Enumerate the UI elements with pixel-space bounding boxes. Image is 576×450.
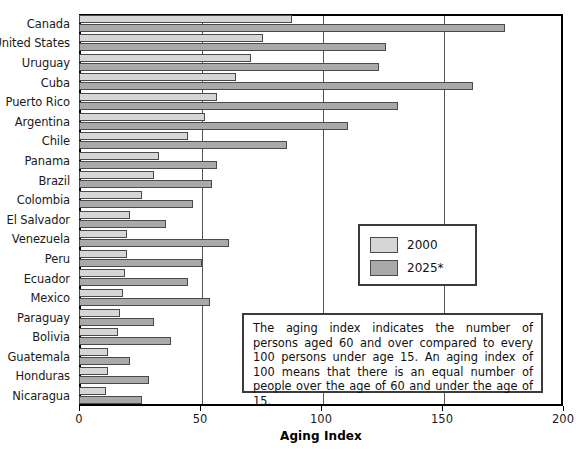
bar-group: [79, 151, 563, 171]
y-axis-label: Puerto Rico: [0, 92, 75, 112]
bar-group: [79, 249, 563, 269]
bar-2000: [79, 367, 108, 375]
x-axis-tick: [79, 406, 80, 411]
legend-item: 2025*: [370, 256, 475, 279]
y-axis-label: Cuba: [0, 73, 75, 93]
bar-2025: [79, 43, 386, 51]
legend-label: 2000: [407, 238, 438, 252]
y-axis-label: Ecuador: [0, 269, 75, 289]
y-axis-label: Bolivia: [0, 328, 75, 348]
y-axis-label: Venezuela: [0, 230, 75, 250]
bar-group: [79, 92, 563, 112]
y-axis-label: Mexico: [0, 288, 75, 308]
bar-2000: [79, 152, 159, 160]
bar-2000: [79, 348, 108, 356]
bar-2000: [79, 191, 142, 199]
bar-2000: [79, 211, 130, 219]
bar-2000: [79, 250, 127, 258]
bar-group: [79, 132, 563, 152]
y-axis-label: Nicaragua: [0, 386, 75, 406]
y-axis-label: Paraguay: [0, 308, 75, 328]
note-box: The aging index indicates the number of …: [242, 313, 543, 393]
bar-2000: [79, 387, 106, 395]
bar-2025: [79, 180, 212, 188]
x-axis-tick-label: 100: [310, 412, 332, 426]
bar-2025: [79, 298, 210, 306]
x-axis-tick-label: 150: [431, 412, 453, 426]
bar-2000: [79, 328, 118, 336]
bar-2025: [79, 239, 229, 247]
y-axis-label: Chile: [0, 132, 75, 152]
x-axis-tick-label: 200: [552, 412, 574, 426]
legend-swatch: [370, 237, 398, 253]
y-axis-labels: CanadaUnited StatesUruguayCubaPuerto Ric…: [0, 14, 75, 406]
y-axis-label: Canada: [0, 14, 75, 34]
bar-2025: [79, 63, 379, 71]
y-axis-label: Brazil: [0, 171, 75, 191]
y-axis-label: Peru: [0, 249, 75, 269]
bar-group: [79, 269, 563, 289]
y-axis-label: Panama: [0, 151, 75, 171]
bar-2000: [79, 93, 217, 101]
legend-item: 2000: [370, 233, 475, 256]
bar-group: [79, 171, 563, 191]
bar-2025: [79, 122, 348, 130]
bar-group: [79, 112, 563, 132]
bar-group: [79, 34, 563, 54]
bar-group: [79, 230, 563, 250]
y-axis-label: Guatemala: [0, 347, 75, 367]
bar-2000: [79, 73, 236, 81]
bar-2025: [79, 220, 166, 228]
bar-2000: [79, 15, 292, 23]
note-text: The aging index indicates the number of …: [253, 321, 533, 409]
x-axis-title: Aging Index: [79, 429, 563, 443]
bar-2025: [79, 357, 130, 365]
y-axis-label: Argentina: [0, 112, 75, 132]
y-axis-label: El Salvador: [0, 210, 75, 230]
bar-group: [79, 190, 563, 210]
y-axis-label: United States: [0, 34, 75, 54]
bar-2025: [79, 376, 149, 384]
bar-2025: [79, 102, 398, 110]
chart-container: CanadaUnited StatesUruguayCubaPuerto Ric…: [0, 0, 576, 450]
x-axis-tick-label: 0: [75, 412, 82, 426]
bar-2025: [79, 161, 217, 169]
legend: 20002025*: [358, 224, 477, 286]
bar-group: [79, 14, 563, 34]
bar-group: [79, 210, 563, 230]
bar-2000: [79, 54, 251, 62]
bar-2025: [79, 24, 505, 32]
bar-2025: [79, 141, 287, 149]
legend-swatch: [370, 260, 398, 276]
legend-label: 2025*: [407, 261, 444, 275]
bar-2025: [79, 259, 202, 267]
x-axis-tick: [563, 406, 564, 411]
y-axis-label: Colombia: [0, 190, 75, 210]
x-axis-tick: [200, 406, 201, 411]
bar-2025: [79, 278, 188, 286]
bar-2025: [79, 82, 473, 90]
x-axis-tick-label: 50: [193, 412, 208, 426]
bar-group: [79, 73, 563, 93]
bar-2025: [79, 337, 171, 345]
bar-2025: [79, 396, 142, 404]
bar-2000: [79, 34, 263, 42]
x-axis-tick-labels: 050100150200: [0, 412, 576, 428]
bar-2000: [79, 230, 127, 238]
y-axis-label: Uruguay: [0, 53, 75, 73]
bar-2000: [79, 132, 188, 140]
bar-2000: [79, 289, 123, 297]
bar-2000: [79, 171, 154, 179]
bar-2025: [79, 200, 193, 208]
bar-2000: [79, 113, 205, 121]
y-axis-label: Honduras: [0, 367, 75, 387]
bar-2025: [79, 318, 154, 326]
bar-group: [79, 53, 563, 73]
bar-group: [79, 288, 563, 308]
bar-2000: [79, 309, 120, 317]
bar-2000: [79, 269, 125, 277]
